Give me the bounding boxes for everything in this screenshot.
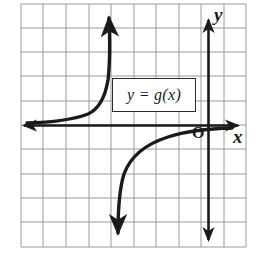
coordinate-plane (0, 0, 259, 259)
curve-branch-lower-right (118, 128, 232, 233)
y-axis-label: y (214, 5, 222, 24)
equation-label: y = g(x) (127, 86, 181, 104)
equation-callout-box: y = g(x) (112, 78, 196, 112)
curve-branch-upper-left (27, 18, 110, 123)
x-axis-label: x (233, 127, 243, 146)
graph-figure: y x O y = g(x) (0, 0, 259, 259)
origin-label: O (192, 125, 204, 141)
